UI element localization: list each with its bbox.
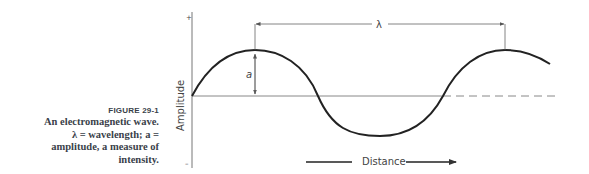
- y-axis-minus: –: [185, 160, 189, 168]
- wave-curve: [192, 50, 550, 136]
- x-axis-label: Distance: [362, 156, 406, 167]
- amplitude-symbol: a: [246, 69, 252, 80]
- wave-diagram: + – Amplitude a λ Distance: [0, 0, 589, 174]
- y-axis-plus: +: [186, 14, 192, 22]
- y-axis-label: Amplitude: [175, 80, 186, 131]
- wavelength-symbol: λ: [376, 19, 382, 30]
